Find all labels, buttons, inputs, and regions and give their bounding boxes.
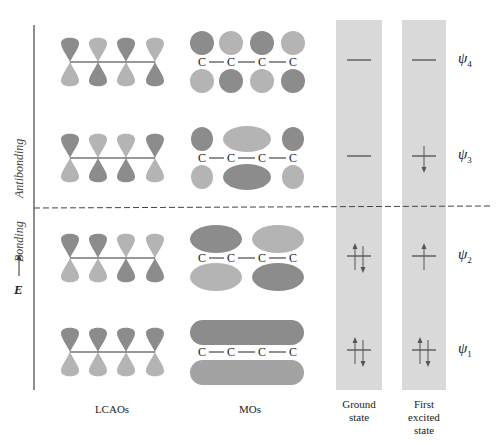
p-orbital-bottom-lobe: [89, 258, 107, 282]
p-orbital-top-lobe: [117, 234, 135, 258]
mo-psi1: CCCC: [190, 320, 304, 385]
carbon-atom-label: C: [258, 55, 266, 69]
carbon-atom-label: C: [227, 151, 235, 165]
p-orbital-top-lobe: [89, 38, 107, 62]
diagram-canvas: CCCCCCCCCCCCCCCC: [0, 0, 503, 444]
ground-state-label: Ground state: [329, 398, 389, 424]
carbon-atom-label: C: [258, 251, 266, 265]
excited-label-line3: state: [394, 424, 454, 437]
p-orbital-top-lobe: [146, 234, 164, 258]
carbon-atom-label: C: [289, 55, 297, 69]
p-orbital-bottom-lobe: [61, 258, 79, 282]
lcao-psi4: [61, 38, 164, 87]
p-orbital-bottom-lobe: [146, 158, 164, 182]
p-orbital-bottom-lobe: [89, 62, 107, 86]
excited-state-label: First excited state: [394, 398, 454, 437]
p-orbital-top-lobe: [61, 38, 79, 62]
p-orbital-bottom-lobe: [61, 158, 79, 182]
p-orbital-bottom-lobe: [117, 158, 135, 182]
p-orbital-bottom-lobe: [117, 258, 135, 282]
label-psi1: ψ1: [458, 340, 472, 359]
antibonding-label: Antibonding: [12, 139, 27, 198]
carbon-atom-label: C: [227, 55, 235, 69]
bonding-label: Bonding: [12, 221, 27, 262]
p-orbital-top-lobe: [61, 328, 79, 352]
carbon-chain: CCCC: [198, 251, 297, 265]
energy-label: E: [14, 282, 23, 298]
p-orbital-top-lobe: [117, 328, 135, 352]
p-orbital-top-lobe: [146, 328, 164, 352]
carbon-chain: CCCC: [198, 151, 297, 165]
mo-psi2: CCCC: [190, 225, 304, 291]
mo-column-label: MOs: [220, 403, 280, 416]
carbon-atom-label: C: [289, 251, 297, 265]
p-orbital-bottom-lobe: [146, 258, 164, 282]
excited-state-band: [402, 20, 446, 390]
p-orbital-bottom-lobe: [117, 62, 135, 86]
mo-psi3: CCCC: [191, 126, 304, 190]
lcao-psi1: [61, 328, 164, 377]
carbon-chain: CCCC: [198, 345, 297, 359]
p-orbital-bottom-lobe: [89, 352, 107, 376]
lcao-psi2: [61, 234, 164, 283]
carbon-atom-label: C: [227, 345, 235, 359]
ground-label-line2: state: [329, 411, 389, 424]
carbon-atom-label: C: [198, 251, 206, 265]
p-orbital-top-lobe: [117, 38, 135, 62]
p-orbital-top-lobe: [89, 234, 107, 258]
carbon-atom-label: C: [198, 151, 206, 165]
lcao-psi3: [61, 134, 164, 183]
lcao-column-label: LCAOs: [82, 403, 142, 416]
carbon-atom-label: C: [258, 151, 266, 165]
carbon-chain: CCCC: [198, 55, 297, 69]
excited-label-line2: excited: [394, 411, 454, 424]
carbon-atom-label: C: [198, 55, 206, 69]
p-orbital-bottom-lobe: [61, 62, 79, 86]
mo-diagram: CCCCCCCCCCCCCCCC Antibonding Bonding E L…: [0, 0, 503, 444]
ground-state-band: [336, 20, 382, 390]
p-orbital-bottom-lobe: [61, 352, 79, 376]
ground-label-line1: Ground: [329, 398, 389, 411]
p-orbital-top-lobe: [61, 134, 79, 158]
p-orbital-bottom-lobe: [146, 352, 164, 376]
p-orbital-top-lobe: [146, 38, 164, 62]
p-orbital-bottom-lobe: [89, 158, 107, 182]
excited-label-line1: First: [394, 398, 454, 411]
p-orbital-top-lobe: [61, 234, 79, 258]
p-orbital-bottom-lobe: [117, 352, 135, 376]
label-psi2: ψ2: [458, 246, 472, 265]
p-orbital-top-lobe: [146, 134, 164, 158]
label-psi4: ψ4: [458, 50, 472, 69]
carbon-atom-label: C: [289, 151, 297, 165]
p-orbital-top-lobe: [89, 134, 107, 158]
carbon-atom-label: C: [198, 345, 206, 359]
p-orbital-top-lobe: [89, 328, 107, 352]
mo-psi4: CCCC: [190, 31, 305, 93]
label-psi3: ψ3: [458, 146, 472, 165]
carbon-atom-label: C: [227, 251, 235, 265]
carbon-atom-label: C: [258, 345, 266, 359]
p-orbital-top-lobe: [117, 134, 135, 158]
p-orbital-bottom-lobe: [146, 62, 164, 86]
carbon-atom-label: C: [289, 345, 297, 359]
